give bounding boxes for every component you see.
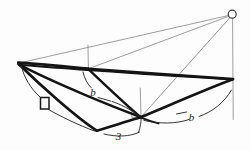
edge-left-to-right-long bbox=[19, 65, 233, 80]
leader-edge-b-right-tick bbox=[177, 112, 187, 114]
label-edge-b-left: b bbox=[90, 86, 96, 98]
label-edge-b-right: b bbox=[189, 111, 195, 123]
construction-line-apex-vertical-drop bbox=[233, 18, 234, 120]
edge-mid-upper-to-center bbox=[89, 69, 141, 117]
label-edge-three: 3 bbox=[115, 130, 122, 142]
apex-vertex-marker bbox=[228, 10, 236, 18]
construction-line-mid-upper-to-apex bbox=[88, 15, 231, 69]
structure-edges-group bbox=[18, 63, 233, 131]
edge-left-to-bottom-left bbox=[19, 64, 97, 131]
construction-line-left-to-apex bbox=[19, 15, 232, 63]
sketch-canvas: b b 3 bbox=[0, 0, 251, 150]
apex-circle bbox=[228, 10, 236, 18]
leader-edge-three-riser bbox=[139, 119, 142, 133]
construction-line-center-to-apex bbox=[141, 16, 231, 117]
right-angle-marker-rect bbox=[41, 98, 50, 110]
right-angle-square-symbol bbox=[41, 98, 50, 110]
leader-edge-three-left-arc bbox=[104, 132, 140, 136]
construction-line-center-vertical bbox=[140, 88, 141, 117]
edge-center-to-right bbox=[141, 79, 233, 117]
geometry-sketch: b b 3 bbox=[0, 0, 251, 150]
leader-edge-b-right-outer-arc bbox=[199, 90, 232, 117]
